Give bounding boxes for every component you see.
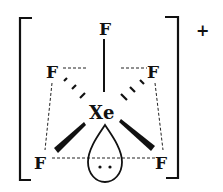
atom-f-lower-right: F xyxy=(155,153,167,173)
lone-pair-orbital xyxy=(88,125,122,182)
xef5-cation-diagram: + F F F Xe F F xyxy=(0,0,223,192)
atom-f-upper-left: F xyxy=(46,62,58,82)
lone-pair-electron xyxy=(108,165,111,168)
bond-upper-right-hashed xyxy=(121,80,144,100)
lone-pair-electron xyxy=(98,165,101,168)
atom-f-lower-left: F xyxy=(34,153,46,173)
atom-xe-center: Xe xyxy=(89,102,114,123)
left-bracket xyxy=(20,18,32,180)
charge-label: + xyxy=(196,21,209,40)
bond-lower-right-wedge xyxy=(119,119,155,151)
atom-f-upper-right: F xyxy=(147,62,159,82)
bond-upper-left-hashed xyxy=(64,78,85,98)
bond-lower-left-wedge xyxy=(54,122,86,153)
atom-f-top: F xyxy=(99,19,111,39)
